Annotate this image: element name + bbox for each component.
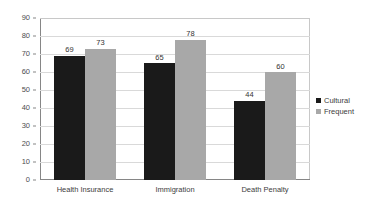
bar-frequent-immigration[interactable]: 78 xyxy=(175,40,206,180)
y-tick-mark xyxy=(33,54,36,55)
bar-cultural-death-penalty[interactable]: 44 xyxy=(234,101,265,180)
legend-label: Cultural xyxy=(324,97,350,105)
bar-chart: 9080706050403020100 697365784460 Health … xyxy=(0,0,377,214)
bar-value-label: 65 xyxy=(155,54,163,62)
legend: CulturalFrequent xyxy=(316,97,374,118)
y-tick-label: 50 xyxy=(22,86,30,94)
legend-swatch-icon xyxy=(316,98,321,103)
y-tick-mark xyxy=(33,18,36,19)
legend-swatch-icon xyxy=(316,109,321,114)
bar-value-label: 44 xyxy=(245,91,253,99)
bar-fill xyxy=(54,56,85,180)
y-tick-label: 10 xyxy=(22,158,30,166)
y-tick-mark xyxy=(33,180,36,181)
legend-item-frequent[interactable]: Frequent xyxy=(316,108,374,116)
y-tick-label: 90 xyxy=(22,14,30,22)
x-tick-label: Health Insurance xyxy=(57,186,114,194)
bar-value-label: 60 xyxy=(276,63,284,71)
y-tick-mark xyxy=(33,108,36,109)
bar-fill xyxy=(265,72,296,180)
bar-value-label: 73 xyxy=(96,39,104,47)
y-tick-mark xyxy=(33,144,36,145)
y-tick-mark xyxy=(33,90,36,91)
legend-label: Frequent xyxy=(324,108,354,116)
y-tick-label: 60 xyxy=(22,68,30,76)
y-tick-mark xyxy=(33,126,36,127)
bar-group: 6973 xyxy=(40,18,130,180)
bar-cultural-immigration[interactable]: 65 xyxy=(144,63,175,180)
bar-frequent-death-penalty[interactable]: 60 xyxy=(265,72,296,180)
bar-group: 4460 xyxy=(220,18,310,180)
y-tick-mark xyxy=(33,72,36,73)
bar-group-inner: 6973 xyxy=(40,18,130,180)
y-tick-label: 0 xyxy=(26,176,30,184)
bar-fill xyxy=(144,63,175,180)
y-tick-label: 40 xyxy=(22,104,30,112)
bar-value-label: 78 xyxy=(186,30,194,38)
bar-fill xyxy=(85,49,116,180)
bar-value-label: 69 xyxy=(65,46,73,54)
x-tick-label: Death Penalty xyxy=(241,186,288,194)
bar-cultural-health-insurance[interactable]: 69 xyxy=(54,56,85,180)
plot-area: 697365784460 xyxy=(40,18,310,180)
x-axis: Health InsuranceImmigrationDeath Penalty xyxy=(40,184,310,200)
bar-group: 6578 xyxy=(130,18,220,180)
bar-group-inner: 4460 xyxy=(220,18,310,180)
bar-frequent-health-insurance[interactable]: 73 xyxy=(85,49,116,180)
bar-fill xyxy=(175,40,206,180)
x-tick-label: Immigration xyxy=(155,186,194,194)
bar-fill xyxy=(234,101,265,180)
y-tick-label: 30 xyxy=(22,122,30,130)
y-tick-label: 70 xyxy=(22,50,30,58)
y-tick-label: 20 xyxy=(22,140,30,148)
y-axis: 9080706050403020100 xyxy=(0,18,36,180)
y-tick-mark xyxy=(33,36,36,37)
bar-group-inner: 6578 xyxy=(130,18,220,180)
y-tick-label: 80 xyxy=(22,32,30,40)
y-tick-mark xyxy=(33,162,36,163)
legend-item-cultural[interactable]: Cultural xyxy=(316,97,374,105)
